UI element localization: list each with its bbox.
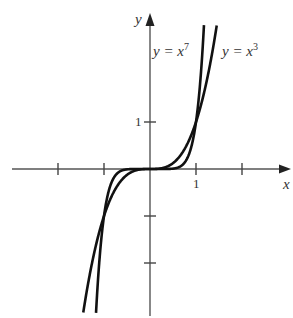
chart: y x 1 1 y = x7 y = x3 [0, 0, 293, 318]
y-axis-label: y [135, 12, 142, 27]
legend-label-x3: y = x3 [222, 42, 258, 59]
x-tick-label-1: 1 [193, 177, 200, 190]
y-axis-arrow-icon [146, 13, 155, 26]
legend-label-x7: y = x7 [153, 42, 189, 59]
x-axis-label: x [283, 177, 290, 192]
x-axis-arrow-icon [279, 165, 291, 174]
y-tick-label-1: 1 [135, 115, 142, 128]
